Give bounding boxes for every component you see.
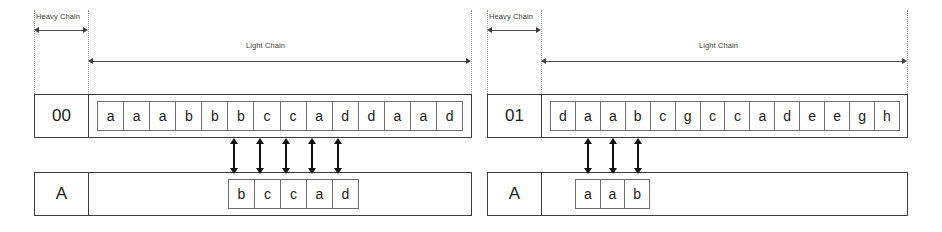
connector-arrow	[337, 144, 339, 168]
letter-cell: a	[576, 102, 601, 130]
letter-cell: d	[333, 102, 359, 130]
chain-box-bottom-right: A	[487, 172, 908, 216]
heavy-chain-arrow-left-cap	[487, 27, 492, 33]
letter-cell: a	[307, 180, 333, 208]
letter-cell: e	[825, 102, 850, 130]
light-chain-label-right: Light Chain	[699, 41, 738, 50]
heavy-chain-label-left: Heavy Chain	[36, 12, 80, 21]
letter-cell: a	[601, 102, 626, 130]
letter-cell: a	[150, 102, 176, 130]
letter-cell: c	[701, 102, 726, 130]
guide-line-left-end	[471, 10, 472, 100]
letter-cell: a	[124, 102, 150, 130]
guide-line-right-middle	[541, 10, 542, 100]
heavy-chain-arrow-right-cap	[536, 27, 541, 33]
left-panel: Heavy Chain Light Chain 00 aaabbbccaddaa…	[0, 0, 480, 232]
guide-line-right-start	[487, 10, 488, 100]
connector-arrow	[311, 144, 313, 168]
letter-cell: b	[228, 102, 254, 130]
chain-id-a-right: A	[488, 173, 542, 215]
right-panel: Heavy Chain Light Chain 01 daabcgccadeeg…	[480, 0, 942, 232]
letter-cell: h	[875, 102, 899, 130]
guide-line-left-middle	[88, 10, 89, 100]
letter-cell: d	[775, 102, 800, 130]
light-chain-arrow-left-cap	[541, 58, 546, 64]
guide-line-left-start	[34, 10, 35, 100]
connector-arrow	[637, 144, 639, 168]
guide-line-right-end	[907, 10, 908, 100]
letter-strip-bottom-left: bccad	[228, 179, 359, 209]
light-chain-label-left: Light Chain	[246, 41, 285, 50]
light-chain-arrow-right-cap	[902, 58, 907, 64]
letter-cell: b	[176, 102, 202, 130]
connector-arrow	[259, 144, 261, 168]
letter-cell: a	[411, 102, 437, 130]
letter-cell: c	[254, 102, 280, 130]
letter-cell: b	[202, 102, 228, 130]
connector-arrow	[285, 144, 287, 168]
heavy-chain-dim-line-left	[38, 30, 85, 31]
light-chain-dim-line-left	[92, 61, 467, 62]
letter-cell: d	[333, 180, 358, 208]
letter-cell: d	[437, 102, 462, 130]
letter-cell: c	[255, 180, 281, 208]
letter-cell: c	[281, 102, 307, 130]
light-chain-arrow-right-cap	[466, 58, 471, 64]
letter-cell: a	[576, 180, 601, 208]
letter-cell: b	[626, 102, 651, 130]
letter-cell: a	[601, 180, 626, 208]
letter-cell: d	[551, 102, 576, 130]
letter-cell: a	[98, 102, 124, 130]
letter-cell: c	[281, 180, 307, 208]
letter-cell: g	[850, 102, 875, 130]
light-chain-dim-line-right	[545, 61, 903, 62]
letter-cell: a	[385, 102, 411, 130]
letter-cell: a	[307, 102, 333, 130]
letter-strip-bottom-right: aab	[575, 179, 650, 209]
letter-cell: a	[750, 102, 775, 130]
connector-arrow	[587, 144, 589, 168]
letter-cell: d	[359, 102, 385, 130]
heavy-chain-dim-line-right	[491, 30, 538, 31]
chain-id-a-left: A	[35, 173, 89, 215]
light-chain-arrow-left-cap	[88, 58, 93, 64]
heavy-chain-label-right: Heavy Chain	[489, 12, 533, 21]
letter-cell: b	[625, 180, 649, 208]
letter-strip-top-left: aaabbbccaddaad	[97, 101, 463, 131]
chain-id-00: 00	[35, 95, 89, 137]
letter-cell: b	[229, 180, 255, 208]
connector-arrow	[612, 144, 614, 168]
letter-cell: e	[800, 102, 825, 130]
letter-cell: c	[651, 102, 676, 130]
letter-cell: c	[725, 102, 750, 130]
letter-strip-top-right: daabcgccadeegh	[550, 101, 900, 131]
connector-arrow	[233, 144, 235, 168]
heavy-chain-arrow-left-cap	[34, 27, 39, 33]
chain-id-01: 01	[488, 95, 542, 137]
letter-cell: g	[676, 102, 701, 130]
heavy-chain-arrow-right-cap	[83, 27, 88, 33]
